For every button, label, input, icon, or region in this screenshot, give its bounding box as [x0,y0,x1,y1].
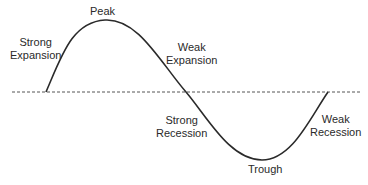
weak-expansion-label: Weak Expansion [166,41,217,67]
cycle-graphic [0,0,368,185]
trough-label: Trough [248,163,282,176]
peak-label: Peak [90,5,115,18]
strong-expansion-label: Strong Expansion [10,36,61,62]
weak-recession-label: Weak Recession [310,113,361,139]
business-cycle-diagram: Peak Strong Expansion Weak Expansion Str… [0,0,368,185]
strong-recession-label: Strong Recession [156,114,207,140]
